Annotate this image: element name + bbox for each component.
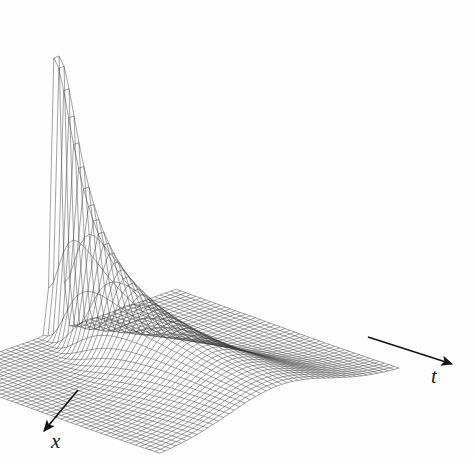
t-axis-label: t [431,366,437,387]
mesh-line [150,365,389,450]
mesh-line [0,253,231,394]
mesh-line [27,342,250,400]
mesh-line [155,366,394,451]
mesh-line [0,354,218,422]
mesh-grid [0,56,399,453]
mesh-line [0,232,221,390]
t-axis-arrow [368,337,452,364]
mesh-line [96,346,335,431]
x-axis-label: x [51,431,60,452]
surface-wireframe-canvas [0,0,474,463]
mesh-line [160,368,399,453]
surface-plot-figure: x t [0,0,474,463]
mesh-line [0,56,176,374]
mesh-line [0,361,197,434]
